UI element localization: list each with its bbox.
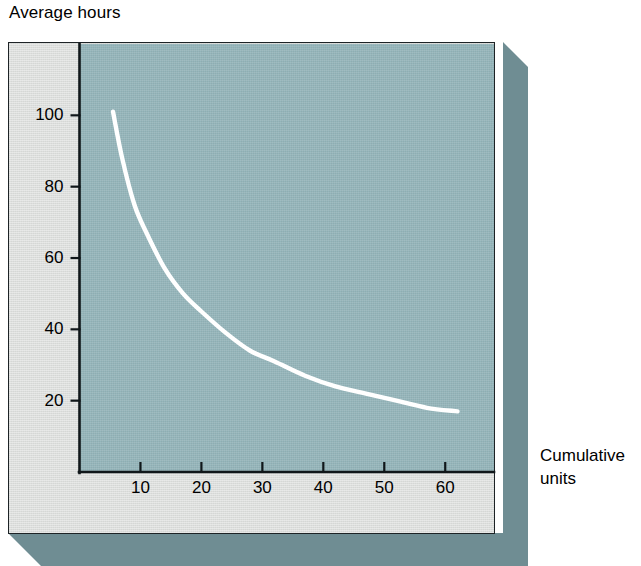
x-tick-label: 50 <box>375 478 394 498</box>
x-axis-title: Cumulative units <box>540 444 625 490</box>
x-axis-title-line1: Cumulative <box>540 444 625 467</box>
x-tick-label: 10 <box>131 478 150 498</box>
y-tick-label: 40 <box>2 319 64 339</box>
learning-curve-figure: Average hours 20406080100 102030405060 C… <box>0 0 641 566</box>
x-tick-label: 20 <box>192 478 211 498</box>
y-tick-label: 60 <box>2 248 64 268</box>
data-curve <box>113 112 457 412</box>
y-tick-label: 100 <box>2 105 64 125</box>
x-tick-label: 30 <box>253 478 272 498</box>
x-tick-label: 60 <box>436 478 455 498</box>
data-series-group <box>113 112 457 412</box>
y-tick-label: 20 <box>2 391 64 411</box>
x-axis-title-line2: units <box>540 467 625 490</box>
y-tick-label: 80 <box>2 177 64 197</box>
x-tick-label: 40 <box>314 478 333 498</box>
